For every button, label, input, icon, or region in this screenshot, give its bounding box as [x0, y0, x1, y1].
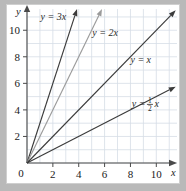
origin-label: 0 — [18, 167, 24, 179]
plot-area: 2468102468100 y = 3xy = 2xy = xy = 12x x… — [6, 4, 180, 184]
x-tick-label: 10 — [151, 168, 163, 180]
line-label: y = — [131, 98, 146, 109]
fraction-denominator: 2 — [148, 104, 152, 113]
fraction-variable: x — [153, 98, 159, 109]
x-tick-label: 8 — [128, 168, 134, 180]
coordinate-plane-chart: 2468102468100 y = 3xy = 2xy = xy = 12x x… — [7, 5, 179, 183]
y-tick-label: 10 — [9, 24, 21, 36]
line-label: y = 2x — [91, 27, 118, 38]
y-axis-arrowhead — [24, 5, 30, 12]
x-tick-label: 2 — [50, 168, 56, 180]
y-tick-label: 6 — [15, 77, 21, 89]
y-tick-label: 2 — [15, 130, 21, 142]
y-tick-label: 4 — [15, 104, 21, 116]
line-label: y = 3x — [40, 11, 67, 22]
y-axis-label: y — [15, 6, 21, 17]
line-3 — [27, 16, 75, 163]
x-tick-label: 4 — [76, 168, 82, 180]
figure-container: 2468102468100 y = 3xy = 2xy = xy = 12x x… — [0, 0, 186, 191]
line-label: y = x — [129, 54, 151, 65]
x-axis-label: x — [170, 167, 176, 178]
x-axis-arrowhead — [169, 160, 177, 166]
x-tick-label: 6 — [102, 168, 108, 180]
line-labels: y = 3xy = 2xy = xy = 12x — [40, 11, 160, 112]
line-arrowhead — [72, 9, 77, 16]
line-arrowhead — [97, 9, 102, 16]
y-tick-label: 8 — [15, 51, 21, 63]
line-2 — [27, 15, 99, 163]
